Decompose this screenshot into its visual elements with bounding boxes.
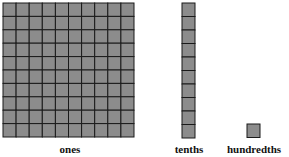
ones-unit-square <box>69 16 82 29</box>
ones-unit-square <box>42 57 55 70</box>
ones-unit-square <box>29 110 42 123</box>
ones-unit-square <box>95 16 108 29</box>
ones-unit-square <box>3 83 16 96</box>
ones-unit-square <box>82 43 95 56</box>
ones-unit-square <box>95 70 108 83</box>
ones-unit-square <box>29 70 42 83</box>
ones-unit-square <box>42 97 55 110</box>
ones-unit-square <box>69 3 82 16</box>
ones-unit-square <box>95 124 108 137</box>
ones-unit-square <box>55 16 68 29</box>
ones-unit-square <box>121 110 134 123</box>
tenths-unit-square <box>182 3 195 17</box>
ones-unit-square <box>16 70 29 83</box>
ones-unit-square <box>55 124 68 137</box>
ones-unit-square <box>3 57 16 70</box>
ones-unit-square <box>42 30 55 43</box>
ones-unit-square <box>121 124 134 137</box>
ones-unit-square <box>3 3 16 16</box>
ones-unit-square <box>95 57 108 70</box>
ones-unit-square <box>121 30 134 43</box>
ones-unit-square <box>121 97 134 110</box>
ones-unit-square <box>121 16 134 29</box>
tenths-unit-square <box>182 125 195 139</box>
ones-unit-square <box>16 30 29 43</box>
ones-unit-square <box>29 83 42 96</box>
ones-unit-square <box>16 97 29 110</box>
ones-unit-square <box>42 43 55 56</box>
ones-unit-square <box>55 43 68 56</box>
ones-label: ones <box>60 143 82 155</box>
ones-unit-square <box>95 110 108 123</box>
ones-unit-square <box>69 124 82 137</box>
ones-unit-square <box>3 70 16 83</box>
tenths-block <box>182 3 195 138</box>
tenths-unit-square <box>182 44 195 58</box>
hundredths-unit-square <box>247 124 260 138</box>
base-ten-blocks-diagram: ones tenths hundredths <box>0 0 289 157</box>
tenths-label: tenths <box>175 143 204 155</box>
ones-unit-square <box>3 43 16 56</box>
ones-unit-square <box>108 110 121 123</box>
ones-unit-square <box>55 110 68 123</box>
ones-unit-square <box>82 70 95 83</box>
ones-unit-square <box>16 83 29 96</box>
ones-unit-square <box>29 97 42 110</box>
ones-unit-square <box>42 3 55 16</box>
ones-unit-square <box>69 110 82 123</box>
ones-unit-square <box>3 30 16 43</box>
ones-unit-square <box>55 3 68 16</box>
ones-unit-square <box>55 30 68 43</box>
ones-unit-square <box>42 70 55 83</box>
ones-unit-square <box>29 30 42 43</box>
ones-unit-square <box>29 57 42 70</box>
tenths-unit-square <box>182 17 195 31</box>
ones-unit-square <box>16 16 29 29</box>
ones-unit-square <box>95 97 108 110</box>
ones-unit-square <box>42 110 55 123</box>
ones-unit-square <box>82 83 95 96</box>
hundredths-label: hundredths <box>227 143 282 155</box>
ones-unit-square <box>82 16 95 29</box>
ones-unit-square <box>121 83 134 96</box>
ones-unit-square <box>69 83 82 96</box>
ones-unit-square <box>82 57 95 70</box>
ones-unit-square <box>95 83 108 96</box>
ones-unit-square <box>108 3 121 16</box>
ones-unit-square <box>108 70 121 83</box>
ones-unit-square <box>82 3 95 16</box>
ones-unit-square <box>69 30 82 43</box>
ones-unit-square <box>16 57 29 70</box>
ones-unit-square <box>3 16 16 29</box>
tenths-unit-square <box>182 71 195 85</box>
tenths-unit-square <box>182 30 195 44</box>
ones-unit-square <box>16 3 29 16</box>
ones-unit-square <box>55 57 68 70</box>
ones-unit-square <box>121 3 134 16</box>
ones-unit-square <box>69 43 82 56</box>
ones-unit-square <box>95 30 108 43</box>
ones-unit-square <box>95 3 108 16</box>
ones-unit-square <box>69 70 82 83</box>
ones-unit-square <box>82 110 95 123</box>
ones-unit-square <box>121 70 134 83</box>
ones-unit-square <box>95 43 108 56</box>
ones-unit-square <box>42 16 55 29</box>
ones-unit-square <box>108 83 121 96</box>
ones-unit-square <box>82 30 95 43</box>
ones-unit-square <box>29 43 42 56</box>
tenths-unit-square <box>182 84 195 98</box>
tenths-unit-square <box>182 111 195 125</box>
tenths-unit-square <box>182 98 195 112</box>
ones-unit-square <box>108 30 121 43</box>
ones-unit-square <box>3 97 16 110</box>
ones-unit-square <box>108 124 121 137</box>
ones-unit-square <box>42 83 55 96</box>
ones-unit-square <box>29 16 42 29</box>
ones-unit-square <box>16 43 29 56</box>
ones-unit-square <box>3 124 16 137</box>
ones-unit-square <box>108 16 121 29</box>
ones-unit-square <box>42 124 55 137</box>
ones-unit-square <box>82 97 95 110</box>
ones-block <box>3 3 134 137</box>
